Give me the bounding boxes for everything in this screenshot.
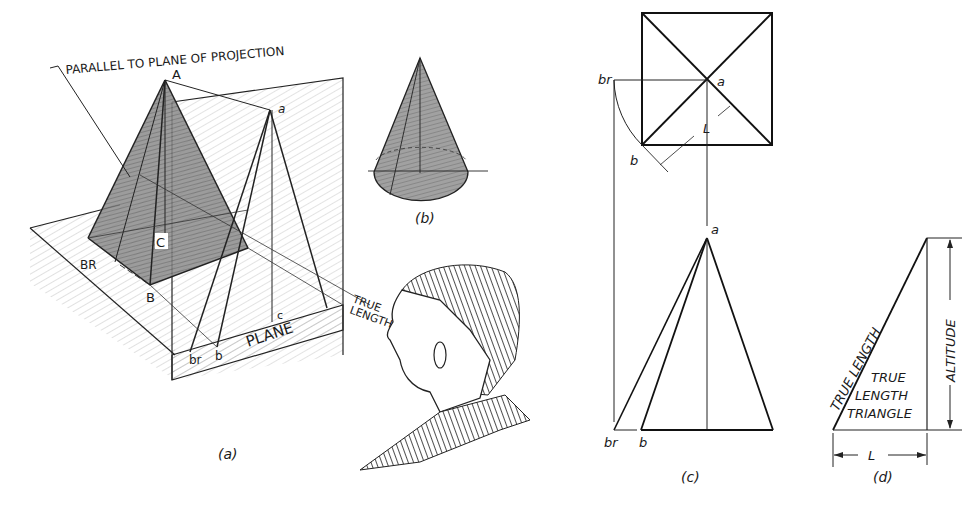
panel-b: (b) [368,58,488,226]
top-label-br: br [598,72,613,87]
tl-triangle-line2: LENGTH [855,388,908,403]
L-label: L [868,448,875,463]
label-br: br [189,353,202,367]
top-label-a: a [717,74,725,89]
panel-d: TRUE LENGTH TRUE LENGTH TRIANGLE ALTITUD… [827,238,962,485]
front-label-b: b [639,435,647,450]
panel-a: PARALLEL TO PLANE OF PROJECTION A a C c … [30,44,394,462]
altitude-label: ALTITUDE [943,319,958,383]
tl-triangle-line1: TRUE [871,370,906,385]
true-length-figure: PARALLEL TO PLANE OF PROJECTION A a C c … [0,0,975,506]
tl-triangle-line3: TRIANGLE [847,406,913,421]
caption-c: (c) [681,469,700,485]
label-C: C [156,235,165,250]
panel-c: br a b L a br b (c) [598,13,773,485]
label-B: B [146,290,155,305]
label-A: A [172,67,181,82]
label-a: a [278,102,285,116]
front-label-a: a [711,222,719,237]
observer-head-illustration [360,265,530,470]
top-label-b: b [630,153,638,168]
caption-d: (d) [873,469,893,485]
label-b: b [215,349,223,363]
top-label-L: L [703,121,710,136]
label-c: c [277,309,283,322]
caption-a: (a) [218,446,238,462]
front-label-br: br [604,435,619,450]
caption-b: (b) [415,210,435,226]
label-BR: BR [80,258,97,272]
